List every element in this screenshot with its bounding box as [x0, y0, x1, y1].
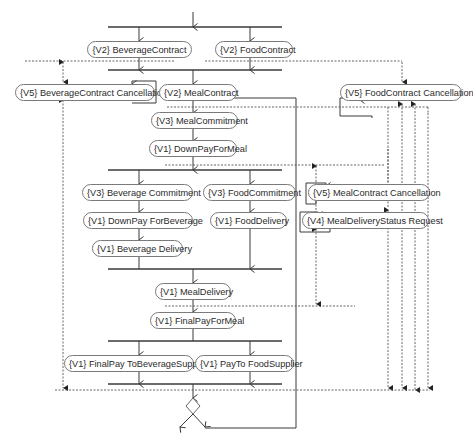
food-contract-cancellation-node: {V5} FoodContract Cancellation	[340, 84, 462, 101]
food-contract-node: {V2} FoodContract	[215, 41, 293, 58]
beverage-delivery-node: {V1} Beverage Delivery	[92, 240, 183, 257]
down-pay-for-meal-node: {V1} DownPayForMeal	[149, 140, 237, 157]
meal-contract-node: {V2} MealContract	[159, 84, 237, 101]
food-delivery-node: {V1} FoodDelivery	[210, 212, 287, 229]
beverage-commitment-node: {V3} Beverage Commitment	[82, 184, 193, 201]
final-pay-to-beverage-supplier-node: {V1} FinalPay ToBeverageSupplier	[64, 355, 194, 372]
meal-delivery-node: {V1} MealDelivery	[155, 283, 231, 300]
pay-to-food-supplier-node: {V1} PayTo FoodSupplier	[195, 355, 294, 372]
final-pay-for-meal-node: {V1} FinalPayForMeal	[150, 312, 236, 329]
beverage-contract-node: {V2} BeverageContract	[87, 41, 192, 58]
meal-delivery-status-request-node: {V4} MealDeliveryStatus Request	[302, 212, 429, 229]
food-commitment-node: {V3} FoodCommitment	[203, 184, 296, 201]
down-pay-for-beverage-node: {V1} DownPay ForBeverage	[83, 212, 193, 229]
meal-commitment-node: {V3} MealCommitment	[151, 112, 238, 129]
meal-contract-cancellation-node: {V5} MealContract Cancellation	[308, 184, 430, 201]
beverage-contract-cancellation-node: {V5} BeverageContract Cancellation	[15, 84, 155, 101]
